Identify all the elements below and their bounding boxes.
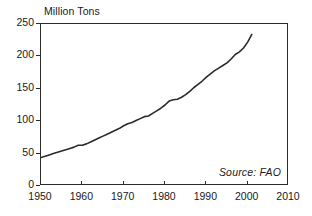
series-line-world-production: [41, 34, 252, 157]
y-tick-label: 200: [4, 48, 34, 60]
x-tick-label: 1950: [22, 190, 58, 202]
y-tick-mark: [36, 88, 40, 89]
x-tick-label: 1990: [187, 190, 223, 202]
y-tick-mark: [36, 120, 40, 121]
x-tick-mark: [123, 181, 124, 185]
y-tick-mark: [36, 185, 40, 186]
y-tick-label: 0: [4, 178, 34, 190]
x-tick-label: 1960: [63, 190, 99, 202]
x-tick-mark: [164, 181, 165, 185]
x-tick-label: 2010: [270, 190, 306, 202]
y-tick-label: 250: [4, 16, 34, 28]
x-tick-label: 2000: [229, 190, 265, 202]
x-tick-mark: [205, 181, 206, 185]
source-annotation: Source: FAO: [219, 166, 281, 178]
y-tick-mark: [36, 153, 40, 154]
y-tick-label: 50: [4, 146, 34, 158]
y-tick-mark: [36, 23, 40, 24]
chart-screenshot: Million Tons Source: FAO 050100150200250…: [0, 0, 312, 216]
x-tick-mark: [247, 181, 248, 185]
y-tick-label: 100: [4, 113, 34, 125]
y-tick-mark: [36, 55, 40, 56]
data-line-svg: [41, 24, 289, 186]
chart-title: Million Tons: [44, 5, 100, 17]
y-tick-label: 150: [4, 81, 34, 93]
plot-area: Source: FAO: [40, 23, 288, 185]
x-tick-label: 1980: [146, 190, 182, 202]
x-tick-label: 1970: [105, 190, 141, 202]
x-tick-mark: [81, 181, 82, 185]
